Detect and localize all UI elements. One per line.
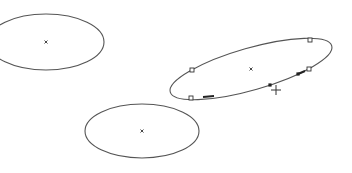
ellipse-outline[interactable] xyxy=(0,14,104,70)
edge-segment[interactable] xyxy=(203,96,214,97)
center-marker-icon xyxy=(45,41,48,44)
center-marker-icon xyxy=(141,130,144,133)
crosshair-cursor-icon xyxy=(271,85,281,95)
ellipse-bottom[interactable] xyxy=(85,104,199,158)
ellipse-tilted[interactable] xyxy=(164,26,337,113)
drawing-canvas[interactable] xyxy=(0,0,352,173)
resize-handle[interactable] xyxy=(189,96,193,100)
control-point[interactable] xyxy=(296,72,299,75)
center-marker-icon xyxy=(250,68,253,71)
shapes-layer xyxy=(0,14,338,158)
cursor-layer xyxy=(271,85,281,95)
resize-handle[interactable] xyxy=(308,38,312,42)
ellipse-left[interactable] xyxy=(0,14,104,70)
control-point[interactable] xyxy=(268,83,271,86)
resize-handle[interactable] xyxy=(307,67,311,71)
resize-handle[interactable] xyxy=(190,68,194,72)
